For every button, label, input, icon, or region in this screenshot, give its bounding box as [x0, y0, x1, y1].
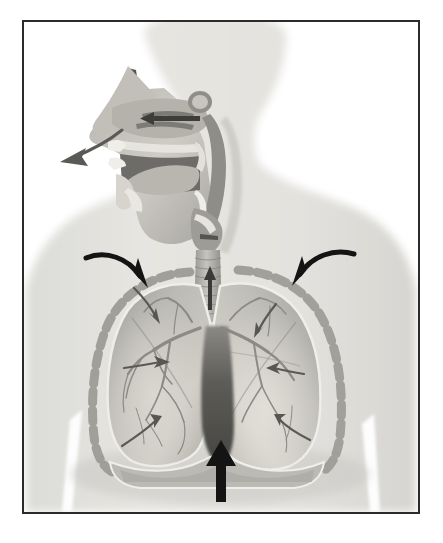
respiratory-system-illustration: [24, 22, 418, 512]
sphenoid-sinus-inner: [192, 95, 208, 109]
figure-frame: [22, 20, 420, 514]
mediastinum: [201, 326, 234, 466]
